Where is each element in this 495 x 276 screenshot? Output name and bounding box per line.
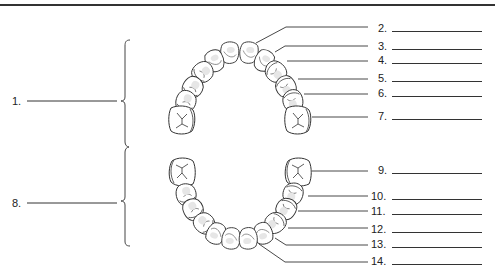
answer-blank-7[interactable]: [392, 119, 482, 120]
answer-blank-12[interactable]: [392, 232, 482, 233]
label-3-number: 3.: [378, 40, 387, 52]
tooth-upper-molar-right: [285, 106, 311, 134]
tooth-upper-molar-left: [169, 106, 195, 134]
label-1-number: 1.: [12, 95, 21, 107]
answer-blank-2[interactable]: [392, 31, 482, 32]
label-11-number: 11.: [371, 205, 385, 217]
label-6-number: 6.: [378, 87, 387, 99]
answer-blank-3[interactable]: [392, 49, 482, 50]
label-9-number: 9.: [378, 164, 387, 176]
label-8-number: 8.: [12, 197, 21, 209]
label-13-number: 13.: [371, 238, 386, 250]
answer-blank-5[interactable]: [392, 81, 482, 82]
leader-3: [275, 46, 368, 52]
answer-blank-9[interactable]: [392, 173, 482, 174]
label-10-number: 10.: [371, 190, 386, 202]
answer-blank-10[interactable]: [392, 199, 482, 200]
answer-blank-6[interactable]: [392, 96, 482, 97]
leader-14: [259, 244, 368, 262]
label-5-number: 5.: [378, 72, 387, 84]
tooth-lower-molar-right: [285, 158, 311, 186]
answer-blank-14[interactable]: [392, 264, 482, 265]
answer-blank-4[interactable]: [392, 63, 482, 64]
label-14-number: 14.: [371, 255, 386, 267]
answer-blank-11[interactable]: [392, 214, 482, 215]
leader-2: [256, 27, 368, 43]
dental-arches-illustration: [0, 0, 495, 276]
label-4-number: 4.: [378, 54, 387, 66]
answer-blank-13[interactable]: [392, 247, 482, 248]
tooth-lower-central-right: [238, 227, 258, 250]
upper-arch-bracket: [121, 40, 130, 147]
lower-arch-bracket: [121, 147, 130, 246]
leader-13: [275, 238, 368, 245]
tooth-lower-molar-left: [169, 158, 195, 186]
label-2-number: 2.: [378, 22, 387, 34]
lower-arch: [169, 158, 311, 250]
label-12-number: 12.: [371, 223, 386, 235]
upper-arch: [169, 41, 311, 134]
label-7-number: 7.: [378, 110, 387, 122]
